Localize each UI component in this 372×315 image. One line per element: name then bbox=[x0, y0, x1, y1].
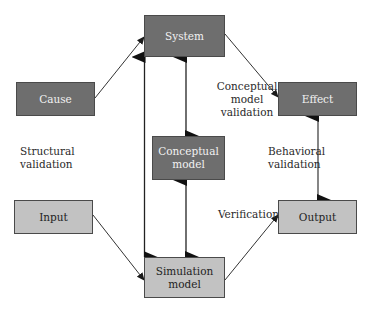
node-effect: Effect bbox=[278, 82, 357, 116]
node-cause-label: Cause bbox=[39, 93, 72, 106]
edge-simulation-to-output bbox=[225, 215, 278, 280]
node-system-label: System bbox=[165, 30, 204, 43]
node-effect-label: Effect bbox=[302, 93, 333, 106]
node-conceptual-model-label-1: Conceptual bbox=[158, 145, 219, 158]
node-simulation-model-label-1: Simulation bbox=[156, 265, 214, 278]
label-conceptual-model-validation: Conceptual model validation bbox=[208, 80, 286, 119]
node-output-label: Output bbox=[299, 211, 336, 224]
edge-cause-to-system bbox=[95, 37, 144, 98]
node-output: Output bbox=[278, 200, 357, 234]
label-verification: Verification bbox=[218, 208, 279, 221]
node-conceptual-model: Conceptual model bbox=[152, 136, 225, 180]
node-input-label: Input bbox=[39, 211, 68, 224]
node-simulation-model-label-2: model bbox=[168, 278, 201, 291]
node-cause: Cause bbox=[16, 82, 95, 116]
node-input: Input bbox=[14, 200, 93, 234]
label-structural-validation: Structural validation bbox=[20, 145, 75, 171]
node-conceptual-model-label-2: model bbox=[172, 158, 205, 171]
label-behavioral-validation: Behavioral validation bbox=[268, 145, 325, 171]
node-system: System bbox=[144, 15, 225, 57]
node-simulation-model: Simulation model bbox=[144, 257, 225, 298]
edge-input-to-simulation bbox=[93, 215, 144, 280]
